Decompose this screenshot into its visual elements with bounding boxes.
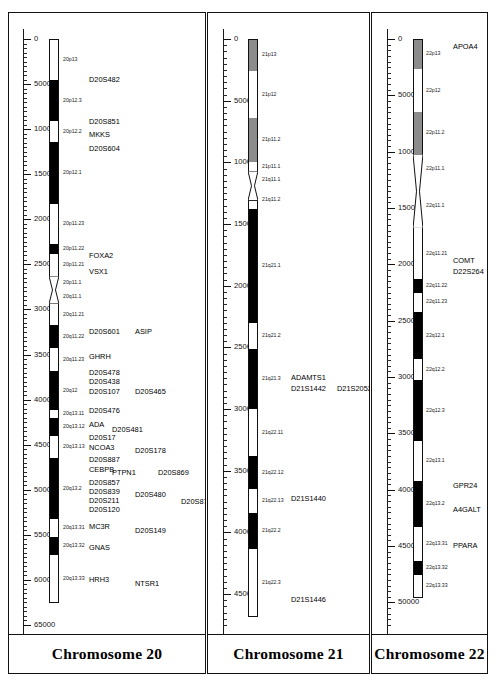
axis-tick-minor: [23, 278, 27, 279]
axis-tick-major: [23, 445, 31, 446]
axis-tick-major: [23, 490, 31, 491]
axis-tick-minor: [223, 193, 227, 194]
axis-tick-minor: [23, 89, 27, 90]
band-20p11.23: [49, 204, 59, 244]
axis-tick-minor: [23, 431, 27, 432]
axis-tick-minor: [387, 202, 391, 203]
ideogram-chr20: [49, 13, 59, 633]
axis-tick-minor: [23, 255, 27, 256]
axis-tick-minor: [387, 276, 391, 277]
axis-tick-minor: [23, 237, 27, 238]
axis-tick-minor: [223, 230, 227, 231]
axis-tick-minor: [223, 138, 227, 139]
p-telomere-cap: [413, 39, 423, 40]
band-label-22p11.2: 22p11.2: [426, 130, 444, 136]
axis-tick-minor: [23, 188, 27, 189]
band-22p11.2: [413, 112, 423, 154]
axis-tick-minor: [23, 526, 27, 527]
axis-tick-minor: [387, 428, 391, 429]
axis-tick-minor: [223, 58, 227, 59]
panel-chr21: 0500010000150002000025000300003500040000…: [207, 12, 370, 674]
axis-tick-minor: [223, 563, 227, 564]
axis-tick-minor: [23, 251, 27, 252]
marker-label-D20S887: D20S887: [89, 456, 120, 464]
axis-tick-minor: [387, 501, 391, 502]
axis-tick-minor: [23, 616, 27, 617]
axis-tick-minor: [23, 494, 27, 495]
axis-tick-minor: [23, 359, 27, 360]
axis-tick-major: [23, 39, 31, 40]
marker-label-D20S876: D20S876: [181, 498, 205, 506]
axis-tick-minor: [223, 508, 227, 509]
axis-tick-minor: [23, 458, 27, 459]
axis-tick-major: [23, 129, 31, 130]
axis-tick-major: [23, 174, 31, 175]
axis-tick-major: [223, 594, 231, 595]
q-telomere-cap: [413, 597, 423, 598]
band-20q13.13: [49, 436, 59, 459]
axis-tick-minor: [223, 428, 227, 429]
marker-label-PTPN1: PTPN1: [112, 469, 136, 477]
axis-tick-minor: [23, 337, 27, 338]
axis-tick-minor: [387, 529, 391, 530]
axis-tick-minor: [23, 296, 27, 297]
axis-tick-minor: [223, 539, 227, 540]
axis-tick-minor: [387, 56, 391, 57]
axis-tick-minor: [23, 291, 27, 292]
axis-tick-minor: [23, 481, 27, 482]
band-21p11.2: [248, 118, 258, 162]
band-label-20q13.2: 20q13.2: [63, 486, 82, 492]
band-label-22q12.1: 22q12.1: [426, 333, 445, 339]
axis-tick-minor: [23, 80, 27, 81]
axis-tick-major: [23, 535, 31, 536]
axis-tick-minor: [23, 544, 27, 545]
axis-tick-minor: [387, 518, 391, 519]
axis-tick-major: [387, 602, 395, 603]
axis-tick-minor: [387, 535, 391, 536]
band-label-22q11.1: 22q11.1: [426, 203, 444, 209]
axis-tick-minor: [23, 427, 27, 428]
axis-tick-minor: [387, 84, 391, 85]
band-label-20p13: 20p13: [63, 57, 77, 63]
axis-tick-major: [223, 347, 231, 348]
band-22p12: [413, 69, 423, 112]
panel-title-chr22: Chromosome 22: [372, 634, 487, 673]
axis-tick-minor: [387, 107, 391, 108]
axis-tick-minor: [23, 183, 27, 184]
axis-tick-minor: [387, 507, 391, 508]
axis-tick-minor: [223, 51, 227, 52]
axis-tick-major: [387, 39, 395, 40]
axis-tick-minor: [223, 452, 227, 453]
axis-tick-minor: [223, 378, 227, 379]
marker-label-MC3R: MC3R: [89, 523, 110, 531]
axis-tick-minor: [23, 341, 27, 342]
band-label-20p12.2: 20p12.2: [63, 129, 82, 135]
axis-tick-minor: [23, 143, 27, 144]
band-20p11.22: [49, 244, 59, 255]
axis-tick-minor: [23, 472, 27, 473]
marker-label-ADA: ADA: [89, 421, 104, 429]
axis-tick-minor: [23, 228, 27, 229]
band-label-21q21.2: 21q21.2: [262, 333, 281, 339]
axis-tick-minor: [387, 73, 391, 74]
axis-tick-minor: [223, 613, 227, 614]
axis-tick-minor: [23, 467, 27, 468]
axis-tick-major: [23, 264, 31, 265]
axis-tick-minor: [387, 169, 391, 170]
axis-tick-minor: [23, 305, 27, 306]
axis-tick-minor: [223, 526, 227, 527]
axis-tick-minor: [223, 329, 227, 330]
axis-tick-minor: [23, 539, 27, 540]
axis-tick-major: [387, 321, 395, 322]
axis-tick-minor: [387, 394, 391, 395]
axis-tick-minor: [223, 576, 227, 577]
axis-tick-minor: [387, 118, 391, 119]
axis-tick-minor: [23, 102, 27, 103]
axis-tick-minor: [223, 317, 227, 318]
marker-label-D20S17: D20S17: [89, 434, 116, 442]
chromosome-ideogram-figure: 0500010000150002000025000300003500040000…: [0, 0, 496, 688]
axis-tick-minor: [387, 157, 391, 158]
axis-tick-minor: [23, 179, 27, 180]
axis-tick-major: [223, 286, 231, 287]
axis-tick-minor: [387, 524, 391, 525]
